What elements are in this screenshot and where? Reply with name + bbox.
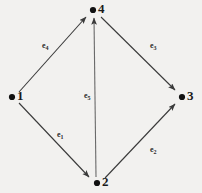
edge-e1-line [19,103,89,177]
node-label-1: 1 [17,89,24,102]
node-label-4: 4 [98,2,105,15]
edge-label-e4: e4 [42,42,49,50]
edge-label-e3: e3 [150,42,157,50]
edge-label-e2-subscript: 2 [154,149,157,155]
node-4-dot[interactable] [90,7,96,13]
node-3-dot[interactable] [179,94,185,100]
node-2-dot[interactable] [94,180,100,186]
edge-label-e3-subscript: 3 [154,45,157,51]
node-1-dot[interactable] [9,94,15,100]
edge-label-e1-subscript: 1 [61,134,64,140]
edge-label-e5: e5 [84,92,91,100]
edge-label-e1: e1 [57,131,64,139]
edge-label-e4-subscript: 4 [46,45,49,51]
edge-label-e2: e2 [150,146,157,154]
node-label-2: 2 [102,175,109,188]
graph-canvas [0,0,202,193]
edge-label-e5-subscript: 5 [88,95,91,101]
edge-e4-line [19,17,86,92]
graph-diagram: 1 2 3 4 e4 e3 e5 e1 e2 [0,0,202,193]
node-label-3: 3 [187,89,194,102]
edge-e5-line [94,18,96,177]
edge-e2-line [105,104,175,178]
edge-e3-line [101,17,175,90]
